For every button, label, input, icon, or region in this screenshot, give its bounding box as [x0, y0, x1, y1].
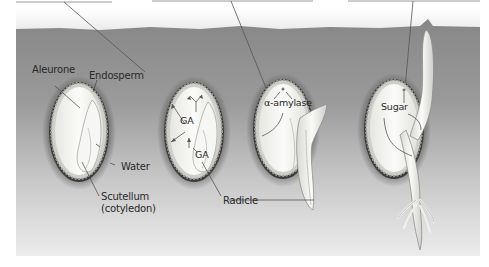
diagram-canvas: [0, 0, 489, 267]
label-ga-lower: GA: [195, 149, 208, 160]
header-lines: [16, 1, 480, 2]
germination-diagram: Aleurone Endosperm Water Scutellum (coty…: [0, 0, 489, 267]
label-endosperm: Endosperm: [89, 70, 144, 81]
seed-stage-2: [157, 76, 231, 190]
label-radicle: Radicle: [223, 195, 258, 206]
label-aleurone: Aleurone: [32, 64, 75, 75]
label-water: Water: [121, 161, 150, 172]
seed-stage-1: [42, 76, 116, 190]
label-alpha-amylase: α-amylase: [264, 97, 312, 108]
label-ga-upper: GA: [180, 115, 193, 126]
label-sugar: Sugar: [381, 101, 408, 112]
label-cotyledon: (cotyledon): [101, 203, 156, 214]
label-scutellum: Scutellum: [101, 191, 149, 202]
